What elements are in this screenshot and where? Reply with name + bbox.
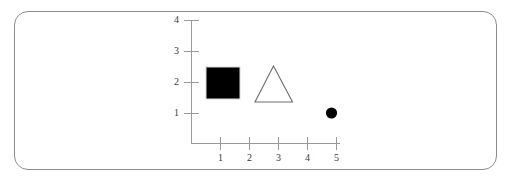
y-tick-label-1: 1	[174, 107, 179, 118]
plot-svg: 4 3 2 1 1 2 3 4 5	[0, 0, 511, 188]
triangle-marker	[255, 66, 293, 102]
screenshot-root: 4 3 2 1 1 2 3 4 5	[0, 0, 511, 188]
x-tick-label-1: 1	[218, 152, 223, 163]
x-tick-label-3: 3	[276, 152, 281, 163]
x-tick-label-2: 2	[247, 152, 252, 163]
circle-marker	[326, 107, 337, 118]
x-tick-label-5: 5	[334, 152, 339, 163]
y-tick-label-2: 2	[174, 76, 179, 87]
plot-area: 4 3 2 1 1 2 3 4 5	[0, 0, 511, 188]
y-tick-label-4: 4	[174, 14, 179, 25]
y-tick-label-3: 3	[174, 45, 179, 56]
x-tick-label-4: 4	[305, 152, 310, 163]
square-marker	[206, 67, 240, 99]
